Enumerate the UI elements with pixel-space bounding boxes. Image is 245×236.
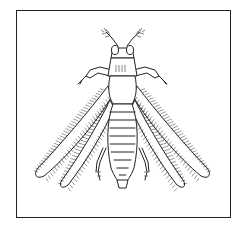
wing-hair [170, 182, 173, 186]
wing-hair [54, 143, 59, 145]
wing-hair [84, 134, 90, 136]
wing-hair [90, 100, 95, 102]
wing-hair [60, 136, 66, 139]
wing-hair [155, 134, 161, 136]
wing-hair [92, 98, 97, 100]
wing-hair [158, 140, 164, 142]
wing-hair [162, 169, 166, 173]
wing-hair [75, 116, 80, 118]
left-eye [112, 46, 119, 55]
wing-hair [176, 131, 182, 134]
wing-hair [52, 170, 55, 174]
wing-hair [174, 128, 180, 131]
wing-hair [69, 161, 74, 163]
wing-hair [149, 98, 154, 100]
wing-hair [160, 112, 165, 114]
abdomen [108, 104, 137, 188]
right-eye [127, 46, 134, 55]
wing-hair [96, 93, 100, 95]
thrips-illustration [0, 0, 245, 236]
wing-hair [158, 109, 163, 111]
wing-hair [155, 105, 160, 107]
wing-hair [184, 141, 189, 143]
wing-hair [62, 133, 68, 136]
wing-hair [157, 107, 162, 109]
wing-hair [56, 141, 61, 143]
wing-hair [182, 138, 188, 141]
wing-hair [192, 172, 195, 176]
wing-hair [63, 131, 69, 134]
wing-hair [81, 165, 85, 169]
wing-hair [194, 175, 196, 179]
wing-hair [141, 89, 145, 90]
wing-hair [156, 137, 162, 139]
wing-hair [94, 96, 98, 98]
wing-hair [168, 121, 174, 124]
wing-hair [81, 109, 86, 111]
wing-hair [164, 149, 170, 151]
wing-hair [185, 164, 188, 168]
wing-hair [83, 137, 89, 139]
wing-hair [165, 152, 171, 154]
wing-hair [164, 116, 169, 118]
wing-hair [180, 136, 186, 139]
wing-hair [151, 100, 156, 102]
wing-hair [98, 91, 102, 92]
wing-hair [186, 143, 191, 145]
wing-hair [153, 102, 158, 104]
wing-hair [77, 146, 83, 148]
wing-hair [70, 185, 73, 188]
thorax [109, 76, 136, 104]
wing-hair [50, 148, 55, 150]
wing-hair [190, 148, 195, 150]
wing-hair [162, 146, 168, 148]
wing-hair [147, 96, 151, 98]
wing-hair [100, 89, 104, 90]
abdomen-tip [117, 180, 128, 188]
wing-hair [65, 128, 71, 131]
wing-hair [160, 143, 166, 145]
wing-hair [79, 112, 84, 114]
wing-hair [58, 138, 64, 141]
wing-hair [169, 158, 175, 160]
wing-hair [74, 178, 77, 182]
wing-hair [170, 124, 176, 127]
wing-hair [55, 167, 58, 171]
wing-hair [67, 126, 73, 129]
wing-hair [171, 161, 176, 163]
wing-hair [77, 114, 82, 116]
wing-hair [76, 149, 82, 151]
wing-hair [166, 175, 170, 179]
wing-hair [50, 172, 53, 176]
wing-hair [188, 167, 191, 171]
wing-hair [79, 143, 85, 145]
wing-hair [48, 175, 50, 179]
wing-hair [178, 133, 184, 136]
wing-hair [81, 140, 87, 142]
wing-hair [85, 105, 90, 107]
wing-hair [172, 126, 178, 129]
wing-hair [71, 121, 77, 124]
wing-hair [76, 175, 80, 179]
wing-hair [87, 102, 92, 104]
wing-hair [168, 178, 171, 182]
wing-hair [174, 188, 177, 191]
wing-hair [197, 178, 199, 182]
wing-hair [143, 91, 147, 92]
wing-hair [73, 119, 79, 122]
wing-hair [77, 172, 81, 176]
wing-hair [83, 107, 88, 109]
wing-hair [172, 185, 175, 188]
wing-hair [167, 155, 173, 157]
wing-hair [72, 182, 75, 186]
wing-hair [57, 164, 60, 168]
wing-hair [164, 172, 168, 176]
antennae [101, 28, 145, 46]
head [111, 46, 134, 59]
wing-hair [69, 124, 75, 127]
wing-hair [162, 114, 167, 116]
wing-hair [52, 146, 57, 148]
wing-hair [68, 188, 71, 191]
wing-hair [188, 146, 193, 148]
wing-hair [190, 170, 193, 174]
